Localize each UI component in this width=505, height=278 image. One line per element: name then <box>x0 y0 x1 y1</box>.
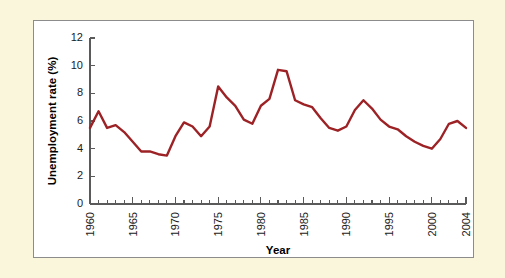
unemployment-rate-line-chart: 0246810121960196519701975198019851990199… <box>34 21 475 259</box>
x-axis-tick-label: 1960 <box>84 212 96 236</box>
x-axis-tick-label: 1990 <box>340 212 352 236</box>
plot-area: 0246810121960196519701975198019851990199… <box>34 21 475 259</box>
y-axis-tick-label: 6 <box>77 114 83 126</box>
x-axis-tick-label: 1995 <box>383 212 395 236</box>
x-axis-title: Year <box>266 244 291 256</box>
y-axis-tick-label: 0 <box>77 197 83 209</box>
unemployment-rate-series-line <box>90 70 466 156</box>
y-axis-tick-label: 2 <box>77 169 83 181</box>
y-axis-title: Unemployment rate (%) <box>46 57 58 186</box>
y-axis-tick-label: 4 <box>77 142 83 154</box>
x-axis-tick-label: 1970 <box>169 212 181 236</box>
chart-panel: 0246810121960196519701975198019851990199… <box>33 20 474 258</box>
x-axis-tick-label: 2004 <box>460 212 472 236</box>
x-axis-tick-label: 1965 <box>127 212 139 236</box>
y-axis-tick-label: 12 <box>71 31 83 43</box>
x-axis-tick-label: 1980 <box>255 212 267 236</box>
x-axis-tick-label: 2000 <box>426 212 438 236</box>
x-axis-tick-label: 1975 <box>212 212 224 236</box>
chart-figure: 0246810121960196519701975198019851990199… <box>0 0 505 278</box>
y-axis-tick-label: 8 <box>77 86 83 98</box>
y-axis-tick-label: 10 <box>71 59 83 71</box>
x-axis-tick-label: 1985 <box>298 212 310 236</box>
